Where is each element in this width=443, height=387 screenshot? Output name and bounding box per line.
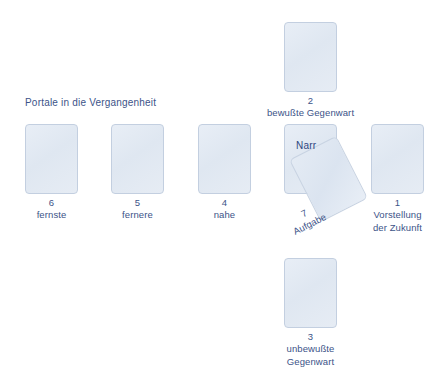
card-4-number: 4 [198, 197, 251, 208]
card-slot-2[interactable] [284, 22, 337, 92]
card-slot-4[interactable] [198, 124, 251, 194]
section-heading-past-portals: Portale in die Vergangenheit [25, 97, 156, 108]
card-5-label: fernere [96, 209, 179, 222]
center-card-name: Narr [296, 140, 316, 151]
card-6-number: 6 [25, 197, 78, 208]
card-slot-6[interactable] [25, 124, 78, 194]
card-1-number: 1 [371, 197, 424, 208]
card-5-number: 5 [111, 197, 164, 208]
card-slot-1[interactable] [371, 124, 424, 194]
card-slot-3[interactable] [284, 258, 337, 328]
card-3-number: 3 [284, 331, 337, 342]
card-4-label: nahe [183, 209, 266, 222]
card-7-label-text: Aufgabe [291, 211, 328, 237]
card-6-label: fernste [10, 209, 93, 222]
tarot-spread-diagram: Portale in die Vergangenheit 6 fernste 5… [0, 0, 443, 387]
card-7-label: 7Aufgabe [270, 192, 343, 245]
card-slot-5[interactable] [111, 124, 164, 194]
card-1-label: Vorstellung der Zukunft [355, 209, 440, 234]
card-2-number: 2 [284, 95, 337, 106]
card-2-label: bewußte Gegenwart [250, 107, 371, 120]
card-3-label: unbewußte Gegenwart [266, 343, 355, 368]
